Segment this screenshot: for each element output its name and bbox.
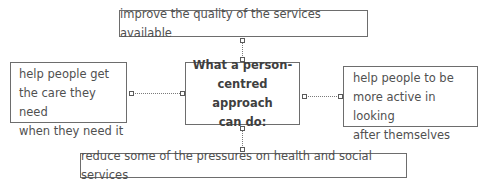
connector-node [302, 94, 307, 99]
central-concept-box: What a person- centred approach can do: [185, 62, 300, 125]
connector-left [133, 93, 180, 94]
central-title-line: can do: [186, 113, 299, 132]
connector-bottom [242, 130, 243, 148]
outcome-box-bottom: reduce some of the pressures on health a… [80, 153, 407, 178]
connector-right [306, 96, 339, 97]
outcome-text-line: help people to be [353, 69, 477, 88]
central-title-line: What a person- [186, 56, 299, 75]
connector-node [129, 91, 134, 96]
outcome-text-line: help people get [19, 65, 126, 84]
outcome-text-line: the care they need [19, 84, 126, 122]
outcome-text-line: when they need it [19, 122, 126, 141]
outcome-box-left: help people get the care they need when … [10, 62, 127, 123]
outcome-text-line: more active in looking [353, 88, 477, 126]
outcome-box-right: help people to be more active in looking… [343, 66, 478, 127]
outcome-box-top: improve the quality of the services avai… [119, 10, 368, 37]
outcome-text-line: after themselves [353, 126, 477, 145]
outcome-text: improve the quality of the services avai… [120, 5, 367, 43]
outcome-text: reduce some of the pressures on health a… [81, 147, 406, 185]
central-title-line: centred approach [186, 75, 299, 113]
